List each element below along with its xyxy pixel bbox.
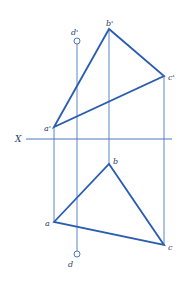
label-b: b bbox=[113, 157, 118, 166]
label-d: d bbox=[68, 260, 73, 269]
top-view-triangle bbox=[54, 164, 164, 245]
point-d-prime-marker bbox=[74, 38, 80, 44]
label-a: a bbox=[45, 219, 50, 228]
label-c: c bbox=[168, 243, 173, 252]
point-d-marker bbox=[74, 251, 80, 257]
projection-diagram: X a' b' c' d' a b c d bbox=[0, 0, 188, 284]
label-b-prime: b' bbox=[106, 19, 113, 28]
label-c-prime: c' bbox=[168, 73, 175, 82]
label-d-prime: d' bbox=[71, 28, 78, 37]
x-axis-label: X bbox=[14, 134, 22, 144]
label-a-prime: a' bbox=[44, 124, 51, 133]
